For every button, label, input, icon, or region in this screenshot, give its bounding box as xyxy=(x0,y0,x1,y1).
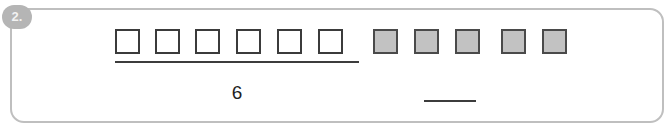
counter-square-empty[interactable] xyxy=(195,29,220,54)
counter-square-empty[interactable] xyxy=(115,29,140,54)
group-count-label: 6 xyxy=(215,82,259,104)
counter-square-empty[interactable] xyxy=(318,29,343,54)
group-underline-labeled xyxy=(115,61,359,63)
counter-square-filled[interactable] xyxy=(414,29,439,54)
counter-square-filled[interactable] xyxy=(542,29,567,54)
squares-row xyxy=(0,29,672,55)
counter-square-empty[interactable] xyxy=(277,29,302,54)
exercise-card xyxy=(10,8,664,123)
answer-blank-line[interactable] xyxy=(424,100,476,102)
counter-square-filled[interactable] xyxy=(373,29,398,54)
counter-square-empty[interactable] xyxy=(155,29,180,54)
counter-square-empty[interactable] xyxy=(236,29,261,54)
counter-square-filled[interactable] xyxy=(501,29,526,54)
item-number-badge: 2. xyxy=(2,5,32,29)
counter-square-filled[interactable] xyxy=(455,29,480,54)
